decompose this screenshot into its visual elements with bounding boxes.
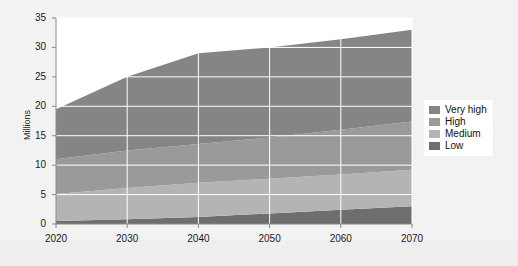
y-tick-label: 25 [20,72,46,82]
x-tick-label: 2070 [388,233,436,244]
y-tick-label: 5 [20,190,46,200]
y-tick-label: 35 [20,13,46,23]
y-tick-label: 30 [20,42,46,52]
chart-card: Millions 05101520253035 2020203020402050… [0,0,518,240]
legend-swatch-icon [429,118,440,126]
legend-item-label: Medium [445,129,481,139]
legend-swatch-icon [429,142,440,150]
legend-item-label: Very high [445,105,487,115]
y-tick-label: 15 [20,131,46,141]
x-tick-label: 2040 [174,233,222,244]
x-tick-label: 2060 [317,233,365,244]
y-tick-label: 20 [20,101,46,111]
chart-legend: Very highHighMediumLow [424,100,493,156]
x-tick-label: 2050 [246,233,294,244]
legend-item-label: Low [445,141,463,151]
y-tick-label: 0 [20,219,46,229]
stacked-area-chart: Millions 05101520253035 2020203020402050… [0,0,518,240]
x-tick-label: 2020 [32,233,80,244]
legend-swatch-icon [429,106,440,114]
legend-item[interactable]: Very high [429,104,487,115]
legend-item-label: High [445,117,466,127]
legend-item[interactable]: Medium [429,128,487,139]
legend-item[interactable]: Low [429,140,487,151]
x-tick-label: 2030 [103,233,151,244]
legend-item[interactable]: High [429,116,487,127]
y-tick-label: 10 [20,160,46,170]
legend-swatch-icon [429,130,440,138]
